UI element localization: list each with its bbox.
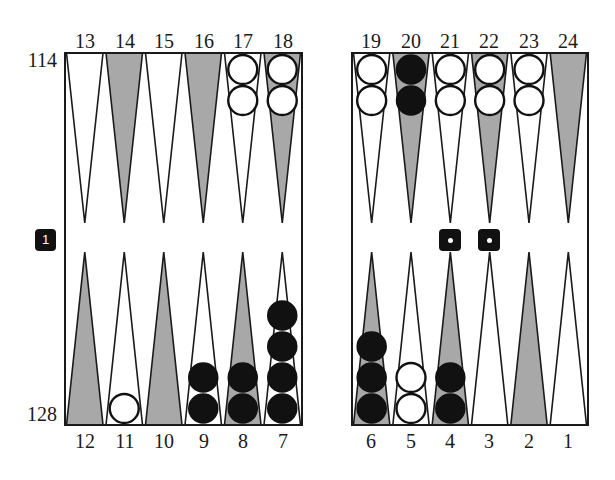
pip-count-bottom: 128 (12, 404, 57, 424)
black-checker-point-9[interactable] (189, 363, 218, 392)
white-checker-point-5[interactable] (397, 394, 426, 423)
point-label-20: 20 (391, 31, 431, 51)
white-checker-point-23[interactable] (515, 86, 544, 115)
point-label-13: 13 (65, 31, 105, 51)
point-label-14: 14 (105, 31, 145, 51)
point-label-16: 16 (184, 31, 224, 51)
white-checker-point-21[interactable] (436, 55, 465, 84)
point-12[interactable] (67, 252, 104, 425)
white-checker-point-19[interactable] (357, 86, 386, 115)
white-checker-point-11[interactable] (110, 394, 139, 423)
point-label-22: 22 (469, 31, 509, 51)
black-checker-point-4[interactable] (436, 394, 465, 423)
point-label-8: 8 (223, 431, 263, 451)
backgammon-board: 114 128 1 13 14 15 16 17 18 19 20 21 22 … (0, 0, 615, 480)
black-checker-point-8[interactable] (228, 363, 257, 392)
die-pip-icon (448, 238, 453, 243)
point-24[interactable] (550, 53, 586, 223)
black-checker-point-9[interactable] (189, 394, 218, 423)
pip-count-top: 114 (12, 50, 57, 70)
white-checker-point-17[interactable] (228, 86, 257, 115)
point-label-21: 21 (430, 31, 470, 51)
black-checker-point-8[interactable] (228, 394, 257, 423)
board-frame-left (65, 53, 302, 425)
white-checker-point-18[interactable] (268, 86, 297, 115)
black-checker-point-6[interactable] (357, 394, 386, 423)
point-13[interactable] (67, 53, 104, 223)
point-label-9: 9 (184, 431, 224, 451)
die-2[interactable] (478, 229, 500, 251)
point-label-4: 4 (430, 431, 470, 451)
black-checker-point-7[interactable] (268, 394, 297, 423)
point-label-1: 1 (548, 431, 588, 451)
point-3[interactable] (472, 252, 508, 425)
point-16[interactable] (185, 53, 222, 223)
white-checker-point-17[interactable] (228, 55, 257, 84)
black-checker-point-20[interactable] (397, 55, 426, 84)
point-2[interactable] (511, 252, 547, 425)
white-checker-point-21[interactable] (436, 86, 465, 115)
point-label-11: 11 (105, 431, 145, 451)
die-1[interactable] (439, 229, 461, 251)
board-frame-right (352, 53, 588, 425)
board-graphic (0, 0, 615, 480)
point-label-7: 7 (263, 431, 303, 451)
point-1[interactable] (550, 252, 586, 425)
point-label-15: 15 (144, 31, 184, 51)
point-15[interactable] (146, 53, 183, 223)
point-label-17: 17 (223, 31, 263, 51)
point-label-2: 2 (509, 431, 549, 451)
black-checker-point-7[interactable] (268, 301, 297, 330)
white-checker-point-5[interactable] (397, 363, 426, 392)
point-10[interactable] (146, 252, 183, 425)
point-label-24: 24 (548, 31, 588, 51)
point-label-5: 5 (391, 431, 431, 451)
die-pip-icon (487, 238, 492, 243)
point-14[interactable] (106, 53, 143, 223)
black-checker-point-6[interactable] (357, 332, 386, 361)
black-checker-point-7[interactable] (268, 363, 297, 392)
point-label-10: 10 (144, 431, 184, 451)
point-label-19: 19 (351, 31, 391, 51)
point-label-3: 3 (469, 431, 509, 451)
point-label-12: 12 (65, 431, 105, 451)
white-checker-point-18[interactable] (268, 55, 297, 84)
doubling-cube[interactable]: 1 (35, 229, 56, 251)
white-checker-point-22[interactable] (475, 55, 504, 84)
point-label-6: 6 (351, 431, 391, 451)
black-checker-point-6[interactable] (357, 363, 386, 392)
white-checker-point-23[interactable] (515, 55, 544, 84)
point-label-18: 18 (263, 31, 303, 51)
black-checker-point-20[interactable] (397, 86, 426, 115)
white-checker-point-19[interactable] (357, 55, 386, 84)
black-checker-point-7[interactable] (268, 332, 297, 361)
point-label-23: 23 (509, 31, 549, 51)
black-checker-point-4[interactable] (436, 363, 465, 392)
white-checker-point-22[interactable] (475, 86, 504, 115)
